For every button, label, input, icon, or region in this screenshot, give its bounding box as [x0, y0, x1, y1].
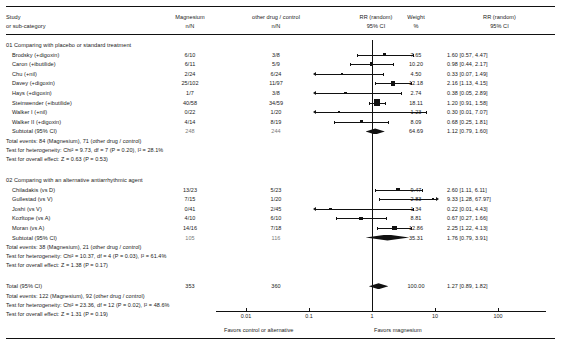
study-effect-1-4: 2.16 [1.13, 4.15]: [447, 80, 557, 86]
subtotal-weight-1: 64.69: [395, 128, 437, 134]
effect-size-box: [396, 188, 400, 192]
ci-cap: [334, 121, 335, 124]
study-effect-1-3: 0.33 [0.07, 1.49]: [447, 71, 557, 77]
study-treat-n-1-6: 40/58: [160, 100, 220, 106]
study-name-1-1: Brodsky (+digoxin): [12, 52, 59, 58]
study-effect-2-2: 9.33 [1.28, 67.97]: [447, 196, 557, 202]
study-treat-n-2-2: 7/15: [160, 196, 220, 202]
study-control-n-1-4: 11/97: [245, 80, 307, 86]
study-effect-1-5: 0.38 [0.05, 2.89]: [447, 90, 557, 96]
effect-size-box: [344, 92, 346, 94]
ci-cap: [386, 217, 387, 220]
study-name-2-1: Chiladakis (vs D): [12, 187, 55, 193]
study-weight-2-4: 8.81: [395, 215, 437, 221]
axis-left-label: Favors control or alternative: [224, 327, 293, 333]
effect-size-box: [383, 53, 386, 56]
study-effect-2-4: 0.67 [0.27, 1.66]: [447, 215, 557, 221]
ci-cap: [426, 111, 427, 114]
ci-cap: [413, 208, 414, 211]
group-heterogeneity-2: Test for heterogeneity: Chi² = 10.37, df…: [6, 253, 166, 259]
study-treat-n-2-4: 4/10: [160, 215, 220, 221]
x-tick-0.1: [309, 308, 310, 311]
study-treat-n-2-1: 13/23: [160, 187, 220, 193]
x-tick-100: [498, 308, 499, 311]
confidence-interval-line: [316, 93, 401, 94]
study-name-2-3: Joshi (vs V): [12, 206, 42, 212]
effect-size-box: [359, 217, 362, 220]
x-axis-line: [216, 311, 546, 312]
header-weight-line1: Weight: [395, 14, 437, 20]
study-treat-n-1-8: 4/14: [160, 119, 220, 125]
study-name-1-4: Davey (+digoxin): [12, 80, 55, 86]
ci-cap: [422, 189, 423, 192]
subtotal-treat-total-2: 105: [160, 235, 220, 241]
study-name-1-7: Walker I (+nil): [12, 109, 47, 115]
study-control-n-1-3: 6/24: [245, 71, 307, 77]
ci-cap: [385, 102, 386, 105]
effect-size-box: [341, 73, 343, 75]
study-treat-n-1-3: 2/24: [160, 71, 220, 77]
ci-cap: [379, 198, 380, 201]
group-heading-2: 02 Comparing with an alternative antiarr…: [6, 177, 143, 183]
header-effect-line2: 95% CI: [447, 23, 552, 29]
total-overall-effect: Test for overall effect: Z = 1.31 (P = 0…: [6, 311, 108, 317]
summary-diamond: [366, 128, 385, 134]
study-control-n-1-6: 34/59: [245, 100, 307, 106]
ci-cap: [369, 102, 370, 105]
ci-cap: [393, 63, 394, 66]
group-heterogeneity-1: Test for heterogeneity: Chi² = 9.73, df …: [6, 147, 163, 153]
study-effect-1-2: 0.98 [0.44, 2.17]: [447, 61, 557, 67]
group-events-2: Total events: 38 (Magnesium), 21 (other …: [6, 244, 141, 250]
x-tick-10: [435, 308, 436, 311]
header-study-line2: or sub-category: [6, 23, 46, 29]
group-heading-1: 01 Comparing with placebo or standard tr…: [6, 42, 131, 48]
header-treat-line1: Magnesium: [160, 14, 220, 20]
ci-arrow-left: [313, 207, 316, 211]
study-effect-2-5: 2.25 [1.22, 4.13]: [447, 225, 557, 231]
ci-arrow-right: [436, 197, 439, 201]
null-effect-line: [372, 40, 373, 309]
total-effect: 1.27 [0.89, 1.82]: [447, 283, 557, 289]
group-overall-effect-2: Test for overall effect: Z = 1.38 (P = 0…: [6, 262, 108, 268]
study-treat-n-1-2: 6/11: [160, 61, 220, 67]
study-control-n-1-2: 5/9: [245, 61, 307, 67]
study-effect-1-1: 1.60 [0.57, 4.47]: [447, 52, 557, 58]
subtotal-label-2: Subtotal (95% CI): [12, 235, 57, 241]
confidence-interval-line: [379, 199, 436, 200]
study-treat-n-2-3: 0/41: [160, 206, 220, 212]
header-control-line1: other drug / control: [245, 14, 307, 20]
header-weight-line2: %: [395, 23, 437, 29]
bottom-rule: [6, 338, 555, 339]
ci-arrow-left: [313, 72, 316, 76]
subtotal-treat-total-1: 248: [160, 128, 220, 134]
ci-cap: [388, 121, 389, 124]
study-control-n-2-4: 6/10: [245, 215, 307, 221]
study-name-2-5: Moran (vs A): [12, 225, 44, 231]
study-control-n-1-8: 8/19: [245, 119, 307, 125]
ci-cap: [401, 92, 402, 95]
group-events-1: Total events: 84 (Magnesium), 71 (other …: [6, 138, 141, 144]
ci-cap: [411, 82, 412, 85]
study-control-n-2-5: 7/18: [245, 225, 307, 231]
study-control-n-1-1: 3/8: [245, 52, 307, 58]
effect-size-box: [360, 120, 363, 123]
study-treat-n-2-5: 14/16: [160, 225, 220, 231]
total-treat-n: 353: [160, 283, 220, 289]
header-rule: [6, 34, 555, 35]
ci-cap: [411, 227, 412, 230]
ci-arrow-left: [313, 91, 316, 95]
total-label: Total (95% CI): [6, 283, 42, 289]
ci-cap: [336, 217, 337, 220]
header-treat-line2: n/N: [160, 23, 220, 29]
study-control-n-2-3: 2/45: [245, 206, 307, 212]
subtotal-control-total-2: 116: [245, 235, 307, 241]
ci-cap: [375, 82, 376, 85]
total-weight: 100.00: [395, 283, 437, 289]
study-treat-n-1-7: 0/22: [160, 109, 220, 115]
group-overall-effect-1: Test for overall effect: Z = 0.63 (P = 0…: [6, 156, 108, 162]
total-heterogeneity: Test for heterogeneity: Chi² = 23.36, df…: [6, 302, 170, 308]
axis-right-label: Favors magnesium: [374, 327, 422, 333]
subtotal-effect-2: 1.76 [0.79, 3.91]: [447, 235, 557, 241]
forest-plot: Study or sub-category Magnesium n/N othe…: [0, 0, 561, 346]
x-tick-label-10: 10: [420, 313, 450, 319]
